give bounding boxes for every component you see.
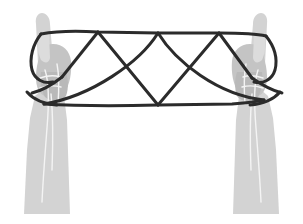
- string-figure-illustration: Cat's Cradle String Figure: [0, 0, 303, 224]
- illustration-canvas: Cat's Cradle String Figure: [0, 0, 303, 224]
